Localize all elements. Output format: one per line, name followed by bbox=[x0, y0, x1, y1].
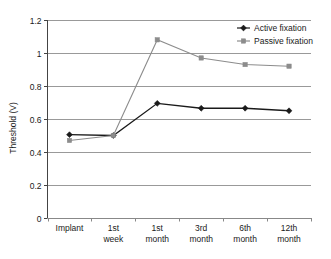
x-axis-label: month bbox=[233, 234, 257, 244]
series-line bbox=[69, 40, 289, 141]
x-axis-label: 1st bbox=[108, 223, 120, 233]
x-axis-label: week bbox=[102, 234, 124, 244]
y-tick-label: 1 bbox=[37, 49, 42, 59]
data-point-marker bbox=[286, 108, 292, 114]
legend-marker-diamond-icon bbox=[241, 25, 247, 31]
x-axis-label: Implant bbox=[56, 223, 85, 233]
x-axis-label: month bbox=[189, 234, 213, 244]
y-axis-ticks: 00.20.40.60.811.2 bbox=[30, 16, 48, 224]
x-axis-label: 6th bbox=[239, 223, 251, 233]
data-point-marker bbox=[67, 132, 73, 138]
chart-legend: Active fixationPassive fixation bbox=[237, 23, 313, 46]
data-point-marker bbox=[155, 38, 159, 42]
y-tick-label: 0.8 bbox=[30, 82, 42, 92]
x-axis-label: month bbox=[145, 234, 169, 244]
x-axis-labels: Implant1stweek1stmonth3rdmonth6thmonth12… bbox=[56, 223, 302, 244]
y-tick-label: 0.2 bbox=[30, 181, 42, 191]
x-axis-label: 12th bbox=[281, 223, 298, 233]
legend-label: Active fixation bbox=[254, 23, 307, 33]
data-point-marker bbox=[198, 105, 204, 111]
y-axis-title: Threshold (V) bbox=[8, 102, 18, 154]
y-tick-label: 0 bbox=[37, 214, 42, 224]
data-point-marker bbox=[287, 64, 291, 68]
y-tick-label: 0.6 bbox=[30, 115, 42, 125]
x-axis-label: month bbox=[277, 234, 301, 244]
data-point-marker bbox=[242, 105, 248, 111]
x-axis-label: 3rd bbox=[195, 223, 208, 233]
y-tick-label: 0.4 bbox=[30, 148, 42, 158]
data-point-marker bbox=[243, 62, 247, 66]
data-point-marker bbox=[199, 56, 203, 60]
legend-marker-square-icon bbox=[241, 39, 245, 43]
x-axis-label: 1st bbox=[152, 223, 164, 233]
data-point-marker bbox=[111, 133, 115, 137]
data-point-marker bbox=[67, 138, 71, 142]
legend-label: Passive fixation bbox=[254, 36, 313, 46]
chart-canvas: Threshold (V) 00.20.40.60.811.2 Implant1… bbox=[0, 0, 331, 259]
y-axis-title-text: Threshold (V) bbox=[8, 102, 18, 154]
threshold-line-chart: Threshold (V) 00.20.40.60.811.2 Implant1… bbox=[0, 0, 331, 259]
y-tick-label: 1.2 bbox=[30, 16, 42, 26]
